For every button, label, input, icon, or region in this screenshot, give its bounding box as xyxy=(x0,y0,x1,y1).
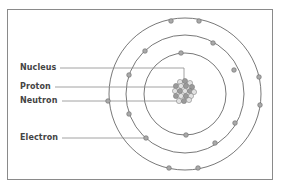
electron-icon xyxy=(233,121,238,126)
electron-icon xyxy=(127,112,132,117)
electron-icon xyxy=(143,49,148,54)
atom-diagram xyxy=(0,0,281,188)
proton-label: Proton xyxy=(20,82,51,92)
electron-icon xyxy=(258,103,263,108)
electron-icon xyxy=(257,75,262,80)
neutron-label: Neutron xyxy=(20,96,57,106)
electron-icon xyxy=(211,41,216,46)
electron-icon xyxy=(184,133,189,138)
leader-lines xyxy=(55,68,184,138)
electron-icon xyxy=(144,136,149,141)
electron-icon xyxy=(196,166,201,171)
nucleus-label: Nucleus xyxy=(20,63,56,73)
electron-icon xyxy=(167,166,172,171)
electron-icon xyxy=(179,51,184,56)
electron-icon xyxy=(106,99,111,104)
electron-icon xyxy=(127,73,132,78)
electron-icon xyxy=(232,68,237,73)
electron-icon xyxy=(197,19,202,24)
nucleus-icon xyxy=(172,78,196,103)
electron-label: Electron xyxy=(20,133,58,143)
electron-icon xyxy=(169,19,174,24)
electron-icon xyxy=(213,141,218,146)
nucleus-leader xyxy=(60,68,184,80)
